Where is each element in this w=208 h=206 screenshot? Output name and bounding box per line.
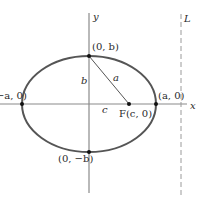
point-right-vertex [154, 102, 158, 106]
point-left-vertex [20, 102, 24, 106]
x-axis-label: x [190, 100, 196, 111]
c-segment-label: c [102, 104, 108, 115]
focus-label: F(c, 0) [119, 108, 152, 119]
top-vertex-label: (0, b) [92, 41, 119, 52]
bottom-vertex-label: (0, −b) [58, 153, 93, 164]
y-axis-label: y [92, 11, 99, 22]
right-vertex-label: (a, 0) [158, 90, 185, 101]
left-vertex-label: (−a, 0) [0, 90, 27, 101]
b-segment-label: b [81, 75, 87, 86]
point-focus [127, 102, 131, 106]
point-top-vertex [87, 54, 91, 58]
ellipse-diagram: y x L (0, b) (0, −b) (−a, 0) (a, 0) F(c,… [0, 0, 208, 206]
directrix-label: L [183, 13, 191, 24]
a-segment-label: a [113, 72, 119, 83]
